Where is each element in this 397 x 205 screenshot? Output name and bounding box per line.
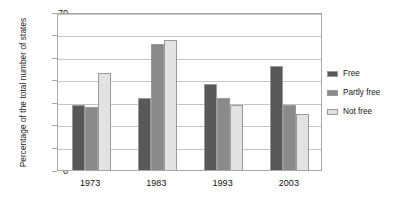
bar-group [138, 14, 177, 170]
bar-group [204, 14, 243, 170]
y-axis-title: Percentage of the total number of states [19, 8, 28, 178]
bar-group [72, 14, 111, 170]
bar [151, 44, 164, 170]
bar [164, 40, 177, 170]
x-tick-label: 1993 [193, 178, 253, 188]
x-tick-label: 1983 [126, 178, 186, 188]
bar-group [270, 14, 309, 170]
bar [72, 105, 85, 170]
legend-item: Free [327, 64, 397, 83]
legend-swatch-icon [327, 71, 338, 77]
legend-label: Partly free [343, 88, 380, 97]
bar [283, 105, 296, 170]
bar [217, 98, 230, 170]
legend-item: Not free [327, 102, 397, 121]
bar [85, 107, 98, 170]
chart-legend: FreePartly freeNot free [327, 64, 397, 121]
plot-area [57, 13, 322, 171]
legend-swatch-icon [327, 109, 338, 115]
bar [98, 73, 111, 170]
bar [270, 66, 283, 170]
legend-item: Partly free [327, 83, 397, 102]
x-tick-label: 2003 [259, 178, 319, 188]
bar [204, 84, 217, 170]
bar [296, 114, 309, 170]
legend-swatch-icon [327, 90, 338, 96]
x-tick-label: 1973 [60, 178, 120, 188]
legend-label: Not free [343, 107, 372, 116]
bar [138, 98, 151, 170]
bar [230, 105, 243, 170]
bar-chart: Percentage of the total number of states… [0, 0, 397, 205]
legend-label: Free [343, 69, 360, 78]
